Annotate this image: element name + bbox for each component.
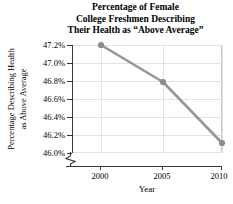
x-tick-label-2005: 2005 bbox=[142, 171, 182, 181]
chart-figure: Percentage of Female College Freshmen De… bbox=[0, 0, 233, 204]
chart-title-line-3: Their Health as “Above Average” bbox=[38, 25, 233, 37]
y-tick-label-46-8: 46.8% bbox=[5, 77, 65, 86]
y-tick-label-46-6: 46.6% bbox=[5, 95, 65, 104]
y-tick-label-46-4: 46.4% bbox=[5, 113, 65, 122]
axis-break-icon bbox=[64, 152, 77, 167]
x-tick-label-2010: 2010 bbox=[199, 171, 233, 181]
x-tick-mark-2000 bbox=[100, 166, 101, 170]
chart-title-line-1: Percentage of Female bbox=[38, 2, 233, 14]
y-tick-label-46-0: 46.0% bbox=[5, 149, 65, 158]
x-axis-line bbox=[66, 166, 222, 167]
chart-title-line-2: College Freshmen Describing bbox=[38, 14, 233, 26]
y-tick-label-47-2: 47.2% bbox=[5, 41, 65, 50]
x-axis-title: Year bbox=[72, 184, 222, 194]
y-tick-label-47-0: 47.0% bbox=[5, 59, 65, 68]
data-point-2000 bbox=[98, 42, 104, 48]
x-tick-label-2000: 2000 bbox=[80, 171, 120, 181]
x-tick-mark-2010 bbox=[221, 166, 222, 170]
y-tick-label-46-2: 46.2% bbox=[5, 131, 65, 140]
series-polyline bbox=[101, 45, 222, 143]
chart-title: Percentage of Female College Freshmen De… bbox=[38, 2, 233, 37]
plot-area bbox=[72, 45, 222, 153]
data-point-2005 bbox=[160, 79, 166, 85]
data-series-line bbox=[73, 45, 223, 153]
data-point-2010 bbox=[219, 140, 225, 146]
x-tick-mark-2005 bbox=[162, 166, 163, 170]
